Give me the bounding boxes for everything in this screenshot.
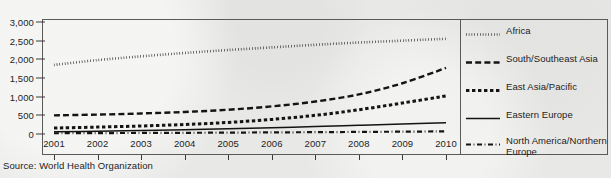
y-axis-tick-label: 2,500	[10, 35, 34, 46]
dotted-line-sample	[466, 26, 500, 37]
y-axis-tick-mark	[36, 134, 45, 135]
series-line	[54, 39, 446, 65]
source-note: Source: World Health Organization	[3, 160, 153, 171]
y-axis-tick-label: 500	[18, 110, 34, 121]
y-axis-tick-label: 1,000	[10, 91, 34, 102]
dash-dot-line-sample	[466, 136, 500, 147]
legend-item-label: North America/Northern Europe	[506, 135, 608, 157]
y-axis-tick-label: 3,000	[10, 17, 34, 28]
x-axis-tick-label: 2007	[305, 138, 327, 149]
x-axis-tick-label: 2010	[435, 138, 457, 149]
y-axis-tick-mark	[36, 96, 45, 97]
x-axis-tick-label: 2001	[43, 138, 65, 149]
legend-item[interactable]: East Asia/Pacific	[466, 81, 608, 93]
legend-divider	[460, 19, 461, 155]
x-axis-tick-mark	[359, 155, 360, 160]
x-axis-tick-mark	[228, 155, 229, 160]
chart-figure: 05001,0001,5002,0002,5003,000 2001200220…	[0, 0, 611, 178]
y-axis-tick-mark	[36, 59, 45, 60]
legend-item[interactable]: Eastern Europe	[466, 109, 608, 121]
y-axis-tick-mark	[36, 115, 45, 116]
y-axis-tick-label: 2,000	[10, 54, 34, 65]
solid-line-sample	[466, 110, 500, 121]
legend-item[interactable]: North America/Northern Europe	[466, 135, 608, 157]
x-axis-tick-label: 2003	[130, 138, 152, 149]
legend-item[interactable]: South/Southeast Asia	[466, 53, 608, 65]
y-axis-tick-mark	[36, 40, 45, 41]
x-axis-tick-label: 2006	[261, 138, 283, 149]
dashed-line-sample	[466, 54, 500, 65]
series-line	[54, 96, 446, 128]
thick-dash-line-sample	[466, 82, 500, 93]
x-axis-tick-mark	[446, 155, 447, 160]
series-line	[54, 123, 446, 132]
series-line	[54, 68, 446, 115]
x-axis-tick-label: 2005	[217, 138, 239, 149]
y-axis-tick-label: 1,500	[10, 73, 34, 84]
y-axis: 05001,0001,5002,0002,5003,000	[0, 0, 42, 178]
y-axis-tick-mark	[36, 22, 45, 23]
legend-item-label: Eastern Europe	[506, 109, 573, 120]
chart-legend: AfricaSouth/Southeast AsiaEast Asia/Paci…	[466, 19, 608, 155]
legend-item[interactable]: Africa	[466, 25, 608, 37]
x-axis-tick-mark	[402, 155, 403, 160]
legend-item-label: East Asia/Pacific	[506, 81, 577, 92]
legend-item-label: South/Southeast Asia	[506, 53, 598, 64]
legend-item-label: Africa	[506, 25, 531, 36]
x-axis-tick-mark	[272, 155, 273, 160]
y-axis-tick-label: 0	[29, 129, 34, 140]
x-axis-tick-label: 2008	[348, 138, 370, 149]
x-axis-tick-mark	[315, 155, 316, 160]
x-axis-tick-label: 2002	[87, 138, 109, 149]
chart-plot-area	[42, 19, 460, 155]
x-axis-tick-label: 2009	[392, 138, 414, 149]
x-axis-tick-label: 2004	[174, 138, 196, 149]
x-axis-tick-mark	[185, 155, 186, 160]
y-axis-tick-mark	[36, 78, 45, 79]
